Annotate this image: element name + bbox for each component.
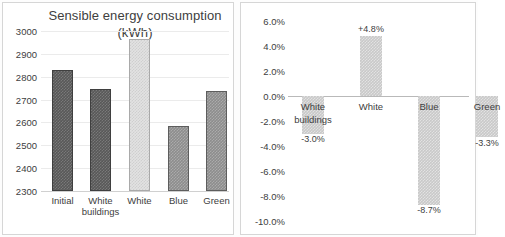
xtick-right-white-buildings: White buildings bbox=[289, 100, 337, 126]
ytick-left-2500: 2500 bbox=[3, 140, 37, 151]
xtick-left-green: Green bbox=[193, 195, 240, 206]
ytick-left-2900: 2900 bbox=[3, 49, 37, 60]
ytick-right-m10: -10.0% bbox=[243, 216, 285, 227]
bar-white-buildings[interactable] bbox=[90, 89, 111, 191]
ytick-right-0: 0.0% bbox=[243, 91, 285, 102]
bar-green[interactable] bbox=[206, 91, 227, 191]
xtick-right-green: Green bbox=[463, 100, 505, 113]
chart-panel-relative-change: 6.0% 4.0% 2.0% 0.0% -2.0% -4.0% -6.0% -8… bbox=[240, 2, 476, 235]
xtick-right-white-buildings-line2: buildings bbox=[289, 113, 337, 126]
xtick-right-blue-line1: Blue bbox=[405, 100, 453, 113]
ytick-left-2700: 2700 bbox=[3, 95, 37, 106]
datalabel-white-buildings: -3.0% bbox=[289, 134, 337, 144]
ytick-right-m4: -4.0% bbox=[243, 141, 285, 152]
xtick-right-white-line1: White bbox=[347, 100, 395, 113]
ytick-right-4: 4.0% bbox=[243, 41, 285, 52]
ytick-left-2600: 2600 bbox=[3, 117, 37, 128]
ytick-left-2800: 2800 bbox=[3, 72, 37, 83]
ytick-left-3000: 3000 bbox=[3, 26, 37, 37]
ytick-right-2: 2.0% bbox=[243, 66, 285, 77]
ytick-right-m2: -2.0% bbox=[243, 116, 285, 127]
xtick-left-green-line1: Green bbox=[193, 195, 240, 206]
xtick-right-blue: Blue bbox=[405, 100, 453, 113]
ytick-right-m6: -6.0% bbox=[243, 166, 285, 177]
datalabel-blue: -8.7% bbox=[405, 205, 453, 215]
ytick-left-2300: 2300 bbox=[3, 186, 37, 197]
bar-initial[interactable] bbox=[52, 70, 73, 191]
gridline-3000 bbox=[41, 31, 229, 32]
xtick-right-green-line1: Green bbox=[463, 100, 505, 113]
ytick-right-6: 6.0% bbox=[243, 16, 285, 27]
ytick-right-m8: -8.0% bbox=[243, 191, 285, 202]
xtick-right-white-buildings-line1: White bbox=[289, 100, 337, 113]
xtick-right-white: White bbox=[347, 100, 395, 113]
bar-white[interactable] bbox=[129, 39, 150, 192]
chart-title-left: Sensible energy consumption (kWh) bbox=[43, 7, 227, 41]
bar-blue[interactable] bbox=[168, 126, 189, 191]
ytick-left-2400: 2400 bbox=[3, 163, 37, 174]
datalabel-white: +4.8% bbox=[347, 24, 395, 34]
xtick-left-white-buildings-line2: buildings bbox=[77, 206, 124, 217]
gridline-2300-axis bbox=[41, 191, 229, 192]
datalabel-green: -3.3% bbox=[463, 138, 505, 148]
chart-panel-sensible-energy: Sensible energy consumption (kWh) 3000 2… bbox=[2, 2, 234, 235]
chart-title-left-line1: Sensible energy consumption bbox=[43, 7, 227, 24]
bar-pct-white[interactable] bbox=[360, 36, 382, 96]
